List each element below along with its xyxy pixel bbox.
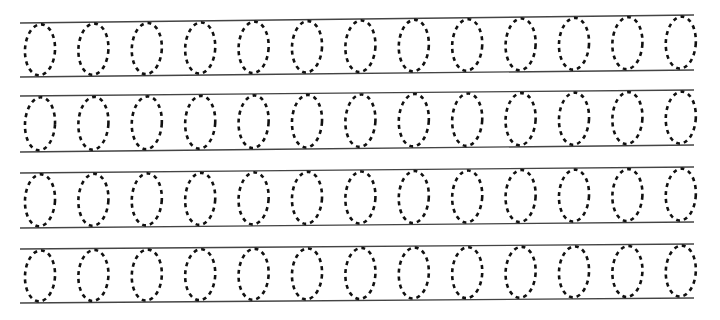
dashed-zero-oval [344, 94, 377, 148]
tracing-row-1 [20, 15, 697, 77]
dashed-zero-oval [291, 94, 324, 148]
dashed-zero-oval [611, 16, 644, 69]
dashed-zero-oval [237, 21, 270, 74]
dashed-zero-oval [451, 170, 484, 223]
dashed-zero-oval [184, 248, 217, 301]
dashed-zero-oval [558, 92, 591, 146]
dashed-zero-oval [130, 173, 163, 226]
dashed-zero-oval [237, 172, 270, 225]
dashed-zero-oval [344, 20, 377, 73]
dashed-zero-oval [397, 170, 430, 223]
dashed-zero-oval [130, 249, 163, 302]
top-rule-line [20, 167, 694, 173]
dashed-zero-oval [397, 93, 430, 147]
tracing-row-4 [20, 244, 697, 303]
dashed-zero-oval [504, 18, 537, 71]
worksheet-canvas [0, 0, 720, 320]
dashed-zero-oval [291, 248, 324, 301]
dashed-zero-oval [184, 172, 217, 225]
dashed-zero-oval [611, 91, 644, 144]
dashed-zero-oval [397, 19, 430, 72]
top-rule-line [20, 15, 694, 23]
dashed-zero-oval [77, 249, 110, 302]
dashed-zero-oval [451, 93, 484, 147]
dashed-zero-oval [451, 246, 484, 299]
dashed-zero-oval [237, 95, 270, 149]
tracing-worksheet [0, 0, 720, 320]
dashed-zero-oval [291, 20, 324, 73]
dashed-zero-oval [77, 96, 110, 150]
dashed-zero-oval [504, 92, 537, 146]
dashed-zero-oval [344, 247, 377, 300]
dashed-zero-oval [504, 246, 537, 299]
dashed-zero-oval [184, 22, 217, 75]
dashed-zero-oval [77, 23, 110, 76]
dashed-zero-oval [24, 97, 57, 151]
dashed-zero-oval [237, 248, 270, 301]
dashed-zero-oval [291, 171, 324, 224]
dashed-zero-oval [558, 169, 591, 222]
dashed-zero-oval [130, 22, 163, 75]
dashed-zero-oval [24, 174, 57, 227]
dashed-zero-oval [664, 91, 697, 144]
tracing-row-3 [20, 167, 697, 228]
dashed-zero-oval [24, 24, 57, 77]
dashed-zero-oval [664, 168, 697, 221]
dashed-zero-oval [664, 245, 697, 298]
dashed-zero-oval [130, 96, 163, 150]
dashed-zero-oval [344, 171, 377, 224]
dashed-zero-oval [451, 18, 484, 71]
dashed-zero-oval [611, 245, 644, 298]
dashed-zero-oval [184, 95, 217, 149]
dashed-zero-oval [558, 17, 591, 70]
dashed-zero-oval [77, 173, 110, 226]
dashed-zero-oval [504, 169, 537, 222]
dashed-zero-oval [24, 250, 57, 303]
dashed-zero-oval [397, 247, 430, 300]
dashed-zero-oval [664, 16, 697, 69]
top-rule-line [20, 90, 694, 96]
tracing-row-2 [20, 90, 697, 152]
dashed-zero-oval [558, 246, 591, 299]
dashed-zero-oval [611, 168, 644, 221]
